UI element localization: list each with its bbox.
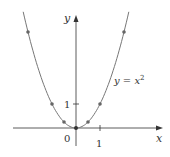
- x-axis-arrow-icon: [156, 126, 163, 131]
- data-point: [74, 126, 78, 130]
- y-axis-arrow-icon: [74, 15, 79, 22]
- data-point: [62, 120, 66, 124]
- x-axis-label: x: [156, 132, 163, 145]
- x-tick-label: 1: [96, 138, 102, 149]
- data-point: [26, 30, 30, 34]
- parabola-chart: y x 0 1 1 y = x2: [0, 0, 170, 157]
- data-point: [50, 102, 54, 106]
- data-point: [122, 30, 126, 34]
- chart-svg: y x 0 1 1 y = x2: [0, 0, 170, 157]
- origin-label: 0: [64, 133, 70, 144]
- curve-label: y = x2: [113, 74, 145, 86]
- y-tick-label: 1: [64, 99, 70, 110]
- data-point: [86, 120, 90, 124]
- y-axis-label: y: [63, 12, 71, 25]
- data-point: [98, 102, 102, 106]
